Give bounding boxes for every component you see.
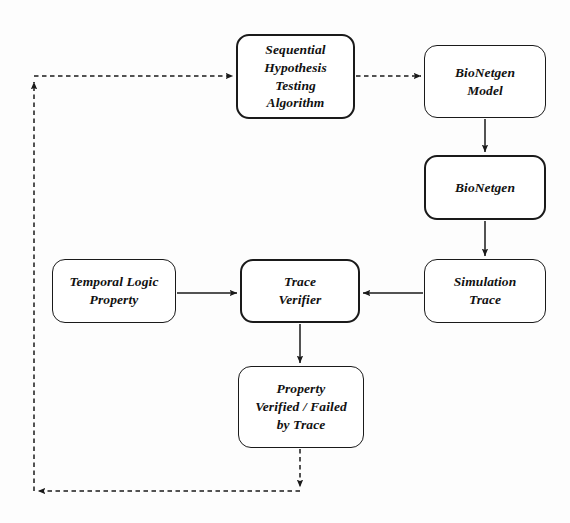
- node-label-line: Property: [90, 291, 139, 309]
- node-property-verified-failed-by-trace: PropertyVerified / Failedby Trace: [238, 366, 364, 448]
- node-label-line: Simulation: [454, 273, 517, 291]
- node-trace-verifier: TraceVerifier: [240, 259, 360, 323]
- node-label-line: Hypothesis: [264, 59, 327, 77]
- node-label-line: Temporal Logic: [69, 273, 158, 291]
- node-label-line: BioNetgen: [455, 64, 515, 82]
- node-sequential-hypothesis-testing-algorithm: SequentialHypothesisTestingAlgorithm: [236, 34, 355, 119]
- node-bionetgen: BioNetgen: [424, 155, 546, 220]
- node-label-line: by Trace: [277, 416, 326, 434]
- flow-diagram: SequentialHypothesisTestingAlgorithmBioN…: [0, 0, 570, 523]
- node-simulation-trace: SimulationTrace: [424, 259, 546, 323]
- node-label-line: Verified / Failed: [255, 398, 347, 416]
- node-label-line: Verifier: [279, 291, 322, 309]
- node-temporal-logic-property: Temporal LogicProperty: [52, 259, 176, 323]
- node-label-line: Algorithm: [267, 94, 325, 112]
- node-label-line: BioNetgen: [455, 179, 515, 197]
- node-label-line: Sequential: [265, 41, 325, 59]
- node-label-line: Property: [277, 380, 326, 398]
- node-label-line: Model: [467, 82, 503, 100]
- node-label-line: Trace: [469, 291, 501, 309]
- node-bionetgen-model: BioNetgenModel: [424, 45, 546, 118]
- node-label-line: Trace: [284, 273, 316, 291]
- node-label-line: Testing: [275, 77, 316, 95]
